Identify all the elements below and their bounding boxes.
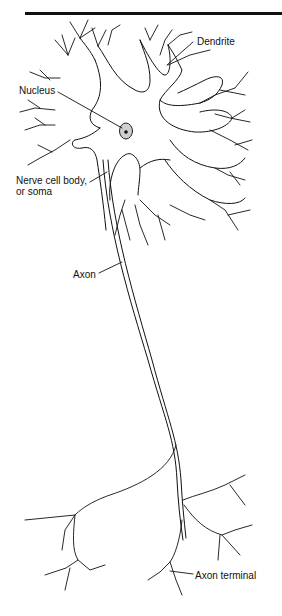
leader-lines <box>58 42 193 574</box>
axon-leader <box>99 262 122 273</box>
label-nucleus: Nucleus <box>19 85 55 96</box>
label-soma-line1: Nerve cell body, <box>16 175 87 186</box>
dendrite-branches <box>20 20 252 245</box>
label-soma-line2: or soma <box>16 186 52 197</box>
soma-outline <box>72 38 245 230</box>
label-dendrite: Dendrite <box>197 36 235 47</box>
nucleus-leader <box>58 92 122 128</box>
nucleus <box>120 123 133 139</box>
dendrite-leader <box>167 42 193 65</box>
axon <box>103 160 186 540</box>
label-axon-terminal: Axon terminal <box>195 570 256 581</box>
label-axon: Axon <box>73 269 96 280</box>
